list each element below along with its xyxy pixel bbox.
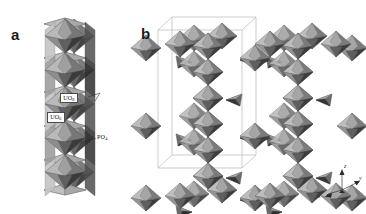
- polyhedral-chain: [44, 18, 95, 196]
- uo6-label-subscript: 6: [59, 116, 61, 121]
- panel-a-structure: [0, 0, 130, 214]
- axis-label-x: x: [317, 193, 321, 199]
- crystal-structure-figure: a: [0, 0, 366, 214]
- panel-b-letter: b: [141, 26, 150, 41]
- bridging-units: [240, 45, 270, 211]
- panel-a-letter: a: [11, 27, 19, 42]
- panel-b-structure: z y x: [130, 0, 366, 214]
- uo8-label-subscript: 8: [72, 97, 74, 102]
- axis-label-z: z: [343, 163, 347, 169]
- uo8-label-text: UO: [63, 94, 72, 101]
- framework-polyhedra: [131, 23, 366, 214]
- uo8-label: UO8: [60, 93, 78, 104]
- panel-a: a: [0, 0, 130, 214]
- panel-b: b: [130, 0, 366, 214]
- chain-shadow-column: [85, 22, 95, 196]
- uo6-label-text: UO: [50, 113, 59, 120]
- axis-label-y: y: [358, 175, 362, 181]
- po4-label: PO4: [97, 134, 107, 140]
- po4-label-text: PO: [97, 133, 105, 140]
- uo6-label: UO6: [47, 112, 65, 123]
